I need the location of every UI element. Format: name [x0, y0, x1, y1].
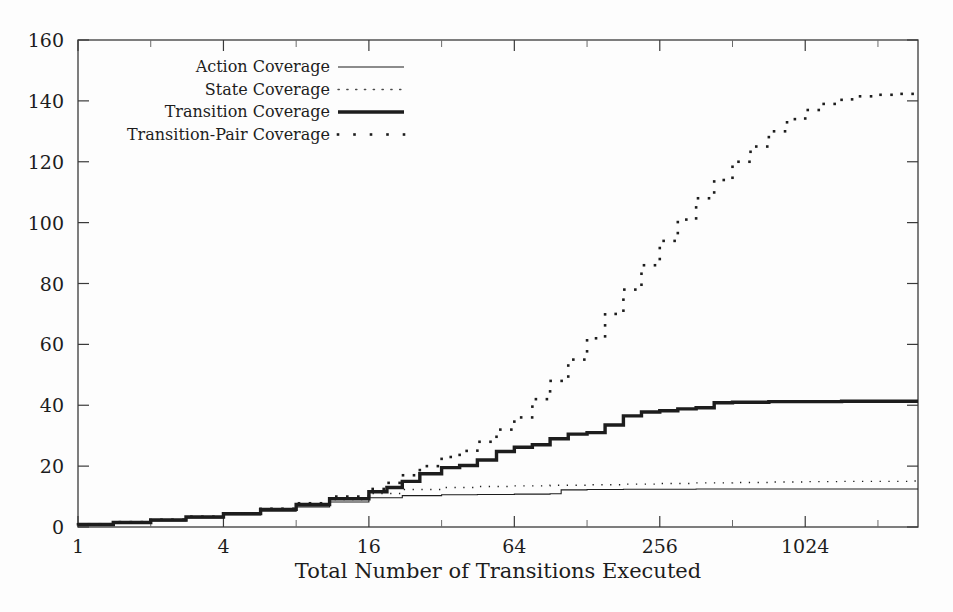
y-tick-label: 40 [40, 394, 64, 416]
x-tick-label: 4 [217, 535, 229, 557]
y-tick-label: 120 [28, 151, 64, 173]
series-2-line [78, 401, 918, 524]
chart-canvas: 020406080100120140160 1416642561024 Acti… [0, 0, 953, 612]
x-tick-label: 256 [642, 535, 678, 557]
legend-swatch-3 [353, 133, 356, 136]
x-tick-label: 16 [357, 535, 381, 557]
y-tick-label: 60 [40, 333, 64, 355]
x-tick-label: 1024 [781, 535, 829, 557]
legend-swatch-3 [386, 133, 389, 136]
x-tick-label: 64 [502, 535, 526, 557]
chart-figure: 020406080100120140160 1416642561024 Acti… [0, 0, 953, 612]
y-tick-label: 100 [28, 212, 64, 234]
y-axis-tick-labels: 020406080100120140160 [28, 29, 64, 538]
series-0-line [78, 489, 918, 525]
legend-swatch-3 [337, 133, 340, 136]
data-series-group [77, 93, 918, 526]
legend-label-3: Transition-Pair Coverage [127, 125, 330, 144]
legend-label-0: Action Coverage [195, 57, 330, 76]
chart-legend: Action CoverageState CoverageTransition … [127, 57, 405, 144]
legend-label-1: State Coverage [205, 80, 330, 99]
x-tick-label: 1 [72, 535, 84, 557]
x-axis-title: Total Number of Transitions Executed [295, 559, 701, 583]
legend-swatch-3 [370, 133, 373, 136]
y-tick-label: 20 [40, 455, 64, 477]
y-tick-label: 80 [40, 273, 64, 295]
legend-swatch-3 [403, 133, 406, 136]
legend-label-2: Transition Coverage [165, 102, 330, 121]
y-tick-label: 160 [28, 29, 64, 51]
x-axis-tick-labels: 1416642561024 [72, 535, 829, 557]
y-tick-label: 140 [28, 90, 64, 112]
y-tick-label: 0 [52, 516, 64, 538]
